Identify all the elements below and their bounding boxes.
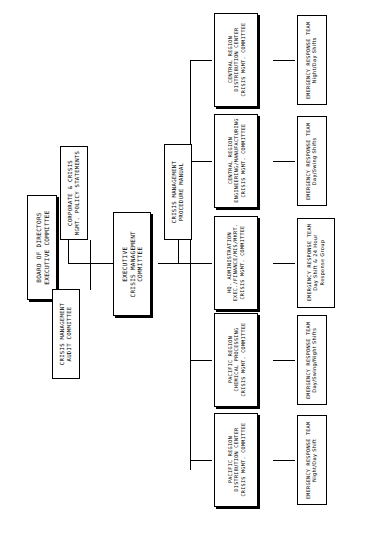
node-central-region-distribution-center-label: CENTRAL REGIONDISTRIBUTION CENTERCRISIS … [226, 23, 245, 97]
node-executive-crisis-management-committee-label: EXECUTIVECRISIS MANAGEMENTCOMMITTEE [121, 231, 144, 298]
connector-policy-stub [90, 240, 91, 263]
node-crisis-mgmt-audit-committee[interactable]: CRISIS MANAGEMENTAUDIT COMMITTEE [52, 289, 80, 379]
node-ert-central-distribution-label: EMERGENCY RESPONSE TEAMNight/Day Shifts [306, 21, 319, 98]
node-pacific-region-chemical-processing-label: PACIFIC REGIONCHEMICAL PROCESSINGCRISIS … [226, 323, 245, 397]
org-chart-canvas: BOARD OF DIRECTORSEXECUTIVE COMMITTEE CR… [0, 0, 370, 541]
node-ert-pacific-chemical[interactable]: EMERGENCY RESPONSE TEAMDay/Swing/Night S… [297, 315, 327, 405]
node-board-of-directors-label: BOARD OF DIRECTORSEXECUTIVE COMMITTEE [35, 210, 50, 284]
node-corporate-crisis-policy-statements[interactable]: CORPORATE & CRISISMGMT. POLICY STATEMENT… [60, 146, 88, 240]
connector-to-central-dist [190, 60, 212, 61]
node-pacific-region-distribution-center-label: PACIFIC REGIONDISTRIBUTION CENTERCRISIS … [226, 423, 245, 497]
connector-board-stub [68, 237, 69, 263]
connector-pacific-dist-to-ert [273, 460, 295, 461]
connector-central-dist-to-ert [273, 60, 295, 61]
connector-to-pacific-chem [190, 360, 212, 361]
node-corporate-crisis-policy-statements-label: CORPORATE & CRISISMGMT. POLICY STATEMENT… [67, 151, 81, 235]
node-ert-pacific-chemical-label: EMERGENCY RESPONSE TEAMDay/Swing/Night S… [306, 321, 319, 398]
node-pacific-region-distribution-center[interactable]: PACIFIC REGIONDISTRIBUTION CENTERCRISIS … [214, 413, 258, 507]
node-central-region-engineering-manufacturing[interactable]: CENTRAL REGIONENGINEERING/MANUFACTURINGC… [214, 114, 258, 208]
node-central-region-engineering-manufacturing-label: CENTRAL REGIONENGINEERING/MANUFACTURINGC… [226, 119, 245, 203]
node-crisis-mgmt-audit-committee-label: CRISIS MANAGEMENTAUDIT COMMITTEE [59, 303, 73, 365]
connector-to-central-eng [190, 161, 212, 162]
node-central-region-distribution-center[interactable]: CENTRAL REGIONDISTRIBUTION CENTERCRISIS … [214, 13, 258, 107]
connector-region-spine [190, 60, 191, 470]
connector-audit-stub [90, 263, 91, 290]
node-hq-administration[interactable]: HQ. ADMINISTRATIONEXEC./FINANCE/MIS/MKRT… [214, 216, 258, 310]
connector-central-eng-to-ert [273, 161, 295, 162]
node-ert-central-engineering-label: EMERGENCY RESPONSE TEAMDay/Swing Shifts [306, 122, 319, 199]
node-ert-hq-administration[interactable]: EMERGENCY RESPONSE TEAMDay Shift & 24 Ho… [297, 218, 335, 308]
node-hq-administration-label: HQ. ADMINISTRATIONEXEC./FINANCE/MIS/MKRT… [226, 224, 245, 301]
node-crisis-management-procedure-manual-label: CRISIS MANAGEMENTPROCEDURE MANUAL [171, 161, 185, 223]
connector-hq-admin-to-ert [273, 263, 295, 264]
node-pacific-region-chemical-processing[interactable]: PACIFIC REGIONCHEMICAL PROCESSINGCRISIS … [214, 313, 258, 407]
node-ert-central-distribution[interactable]: EMERGENCY RESPONSE TEAMNight/Day Shifts [297, 15, 327, 105]
connector-to-pacific-dist [190, 460, 212, 461]
node-ert-pacific-distribution-label: EMERGENCY RESPONSE TEAMNight/Day Shift [306, 421, 319, 498]
node-board-of-directors[interactable]: BOARD OF DIRECTORSEXECUTIVE COMMITTEE [27, 195, 57, 300]
connector-manual-stub [178, 240, 179, 263]
node-crisis-management-procedure-manual[interactable]: CRISIS MANAGEMENTPROCEDURE MANUAL [164, 144, 192, 240]
connector-exec-right [158, 263, 190, 264]
node-executive-crisis-management-committee[interactable]: EXECUTIVECRISIS MANAGEMENTCOMMITTEE [113, 212, 151, 316]
connector-pacific-chem-to-ert [273, 360, 295, 361]
node-ert-central-engineering[interactable]: EMERGENCY RESPONSE TEAMDay/Swing Shifts [297, 116, 327, 206]
connector-to-hq-admin [190, 263, 212, 264]
node-ert-pacific-distribution[interactable]: EMERGENCY RESPONSE TEAMNight/Day Shift [297, 415, 327, 505]
node-ert-hq-administration-label: EMERGENCY RESPONSE TEAMDay Shift & 24 Ho… [306, 224, 325, 301]
